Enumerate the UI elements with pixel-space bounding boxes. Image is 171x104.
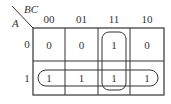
row-label: 0 [22, 39, 32, 50]
kmap-cell: 1 [98, 61, 130, 95]
col-label: 10 [130, 14, 164, 25]
col-label: 11 [98, 14, 130, 25]
row-variable-label: A [12, 18, 19, 29]
kmap-cell: 1 [65, 61, 98, 95]
col-label: 00 [33, 14, 65, 25]
col-label: 01 [65, 14, 98, 25]
kmap-cell: 0 [65, 28, 98, 61]
row-label: 1 [22, 73, 32, 84]
kmap-cell: 0 [130, 28, 164, 61]
kmap-cell: 1 [33, 61, 65, 95]
kmap-cell: 1 [98, 28, 130, 61]
kmap-cell: 0 [33, 28, 65, 61]
kmap-cell: 1 [130, 61, 164, 95]
